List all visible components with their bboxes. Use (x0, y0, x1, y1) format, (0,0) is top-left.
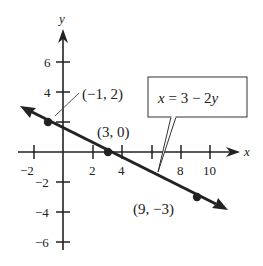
equation-callout: x = 3 − 2y (148, 77, 247, 172)
x-tick-label-8: 8 (177, 163, 184, 178)
equation-text: x = 3 − 2y (157, 90, 219, 106)
point-label-3-0: (3, 0) (97, 124, 130, 141)
x-axis-label: x (243, 144, 250, 159)
x-tick-label-4: 4 (118, 163, 125, 178)
y-axis-label: y (57, 11, 65, 26)
x-axis (18, 147, 240, 157)
point-9-neg3 (193, 193, 201, 201)
x-tick-label-neg2: −2 (20, 163, 34, 178)
point-label-9-neg3: (9, −3) (133, 201, 174, 218)
leader-line-point1 (55, 93, 79, 116)
point-label-neg1-2: (−1, 2) (82, 86, 123, 103)
y-tick-label-4: 4 (44, 85, 51, 100)
point-neg1-2 (44, 118, 52, 126)
y-tick-label-6: 6 (44, 55, 51, 70)
x-tick-label-10: 10 (203, 163, 216, 178)
y-tick-label-neg6: −6 (35, 235, 49, 250)
y-tick-label-neg2: −2 (35, 175, 49, 190)
point-3-0 (104, 148, 112, 156)
graph-figure: −2 2 4 8 10 6 4 −2 −4 −6 x y (−1, 2) (3,… (0, 0, 263, 266)
y-tick-label-neg4: −4 (35, 205, 49, 220)
x-tick-label-2: 2 (89, 163, 96, 178)
coordinate-plane: −2 2 4 8 10 6 4 −2 −4 −6 x y (−1, 2) (3,… (0, 0, 263, 266)
